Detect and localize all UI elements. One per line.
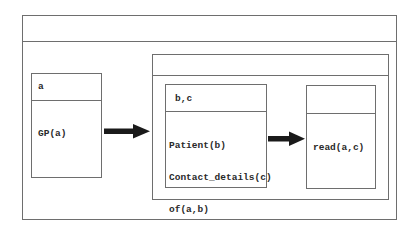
condition: GP(a) bbox=[38, 129, 67, 140]
referents-a: a bbox=[38, 82, 44, 93]
conditions-read: read(a,c) bbox=[313, 122, 364, 175]
outer-header-divider bbox=[23, 41, 396, 42]
conditions-bc: Patient(b) Contact_details(c) of(a,b) of… bbox=[169, 120, 272, 232]
condition: Contact_details(c) bbox=[169, 173, 272, 184]
container-header-divider bbox=[153, 75, 388, 76]
condition: Patient(b) bbox=[169, 141, 272, 152]
referents-bc: b,c bbox=[175, 94, 192, 105]
box-a-divider bbox=[32, 100, 101, 101]
arrow-right-icon bbox=[103, 123, 151, 140]
conditions-a: GP(a) bbox=[38, 108, 67, 161]
condition: of(a,b) bbox=[169, 205, 272, 216]
box-bc-divider bbox=[166, 111, 266, 112]
arrow-right-icon bbox=[267, 131, 306, 147]
box-read-divider bbox=[307, 113, 375, 114]
drs-box-bc: b,c Patient(b) Contact_details(c) of(a,b… bbox=[165, 84, 267, 188]
drs-box-read: read(a,c) bbox=[306, 85, 376, 189]
drs-box-a: a GP(a) bbox=[31, 73, 102, 178]
condition: read(a,c) bbox=[313, 143, 364, 154]
